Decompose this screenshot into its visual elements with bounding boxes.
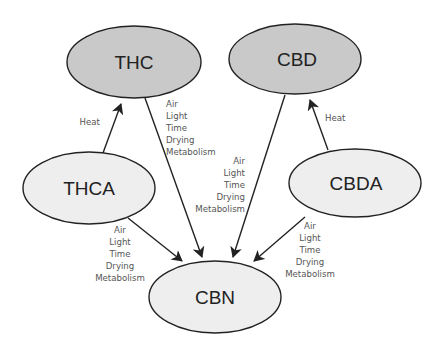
edge-label-drying: Drying: [296, 257, 325, 267]
edge-label-heat: Heat: [80, 117, 101, 127]
node-cbda: CBDA: [289, 149, 421, 217]
edge-label-light: Light: [299, 233, 321, 243]
node-label-cbd: CBD: [277, 49, 317, 70]
cannabinoid-conversion-diagram: Heat Heat Air Light Time Drying Metaboli…: [0, 0, 429, 354]
node-cbd: CBD: [229, 24, 361, 94]
node-label-thca: THCA: [63, 178, 115, 199]
edge-label-time: Time: [223, 180, 245, 190]
edge-label-air: Air: [304, 221, 316, 231]
edge-cbda-to-cbd: Heat: [310, 100, 346, 150]
edge-label-drying: Drying: [106, 261, 135, 271]
arrow-cbda-to-cbd: [310, 100, 328, 150]
node-cbn: CBN: [149, 261, 281, 333]
node-label-cbn: CBN: [195, 287, 235, 308]
edge-label-drying: Drying: [166, 135, 195, 145]
edge-label-time: Time: [165, 123, 187, 133]
arrow-thc-to-cbn: [145, 98, 202, 257]
edge-thc-to-cbn: Air Light Time Drying Metabolism: [145, 98, 216, 257]
edge-label-heat: Heat: [325, 113, 346, 123]
node-thc: THC: [67, 26, 201, 98]
node-label-thc: THC: [114, 52, 153, 73]
edge-cbda-to-cbn: Air Light Time Drying Metabolism: [254, 217, 335, 279]
edge-label-light: Light: [109, 237, 131, 247]
edge-label-time: Time: [108, 249, 130, 259]
edge-label-metabolism: Metabolism: [285, 269, 335, 279]
node-label-cbda: CBDA: [330, 173, 383, 194]
node-thca: THCA: [23, 152, 155, 224]
edge-label-time: Time: [298, 245, 320, 255]
edge-label-air: Air: [114, 225, 126, 235]
edge-thca-to-thc: Heat: [80, 104, 121, 153]
edge-label-metabolism: Metabolism: [166, 147, 216, 157]
edge-label-light: Light: [166, 111, 188, 121]
arrow-cbda-to-cbn: [254, 217, 305, 261]
edge-label-group: Air Light Time Drying Metabolism: [95, 225, 145, 283]
edge-label-metabolism: Metabolism: [95, 273, 145, 283]
edge-label-air: Air: [166, 99, 178, 109]
edge-label-group: Air Light Time Drying Metabolism: [165, 99, 216, 157]
arrow-thca-to-thc: [103, 104, 121, 153]
edge-label-metabolism: Metabolism: [195, 204, 245, 214]
arrow-thca-to-cbn: [128, 218, 182, 261]
edge-cbd-to-cbn: Air Light Time Drying Metabolism: [195, 95, 285, 257]
edge-label-group: Air Light Time Drying Metabolism: [195, 156, 245, 214]
edge-label-group: Air Light Time Drying Metabolism: [285, 221, 335, 279]
edge-label-light: Light: [224, 168, 246, 178]
edge-label-drying: Drying: [216, 192, 245, 202]
edge-label-air: Air: [233, 156, 245, 166]
